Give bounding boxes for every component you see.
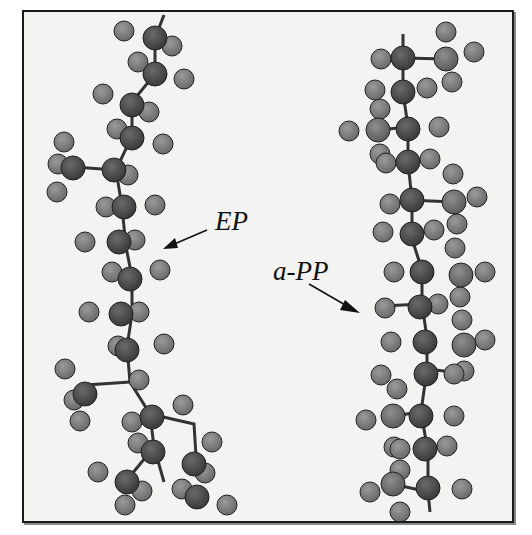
app-molecule — [339, 22, 495, 521]
app-label: a-PP — [273, 258, 328, 285]
ep-arrow — [163, 230, 207, 249]
ep-label: EP — [215, 208, 248, 235]
ep-molecule — [47, 15, 237, 515]
app-arrow — [309, 284, 360, 313]
figure-frame: EP a-PP — [22, 10, 514, 523]
molecule-diagram — [24, 12, 512, 521]
